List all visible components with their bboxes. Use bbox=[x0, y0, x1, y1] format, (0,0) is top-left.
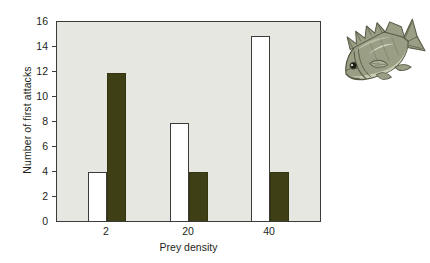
bar-open-40 bbox=[251, 36, 270, 221]
y-tick-6 bbox=[52, 146, 57, 147]
y-tick-label-16: 16 bbox=[6, 16, 48, 27]
plot-area bbox=[56, 21, 321, 222]
bar-open-20 bbox=[170, 123, 189, 222]
figure: Number of first attacks 16 14 12 10 8 6 … bbox=[0, 0, 430, 263]
y-tick-label-12: 12 bbox=[6, 66, 48, 77]
bar-open-2 bbox=[88, 172, 107, 221]
bar-filled-20 bbox=[189, 172, 208, 221]
y-tick-2 bbox=[52, 196, 57, 197]
y-tick-14 bbox=[52, 46, 57, 47]
y-tick-label-14: 14 bbox=[6, 41, 48, 52]
x-tick-label-40: 40 bbox=[249, 226, 289, 237]
x-tick-label-20: 20 bbox=[168, 226, 208, 237]
y-tick-label-2: 2 bbox=[6, 191, 48, 202]
y-tick-label-4: 4 bbox=[6, 166, 48, 177]
y-tick-label-10: 10 bbox=[6, 91, 48, 102]
y-tick-12 bbox=[52, 71, 57, 72]
bar-filled-40 bbox=[270, 172, 289, 221]
y-tick-8 bbox=[52, 121, 57, 122]
y-tick-label-0: 0 bbox=[6, 216, 48, 227]
fish-illustration bbox=[336, 12, 428, 112]
y-tick-10 bbox=[52, 96, 57, 97]
y-tick-label-6: 6 bbox=[6, 141, 48, 152]
x-tick-label-2: 2 bbox=[86, 226, 126, 237]
y-tick-label-8: 8 bbox=[6, 116, 48, 127]
bar-filled-2 bbox=[107, 73, 126, 221]
y-tick-4 bbox=[52, 171, 57, 172]
x-axis-title: Prey density bbox=[56, 241, 321, 253]
